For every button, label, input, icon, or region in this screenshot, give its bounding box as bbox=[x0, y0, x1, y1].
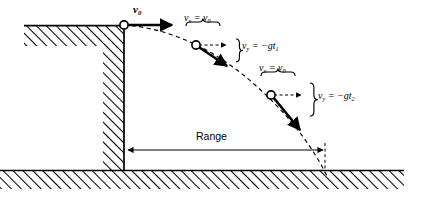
launch-point-marker bbox=[120, 21, 128, 29]
figure-canvas bbox=[0, 0, 430, 201]
range-dimension bbox=[128, 143, 325, 170]
label-range: Range bbox=[196, 131, 227, 142]
launch-point-group bbox=[120, 21, 172, 29]
ground-hatching bbox=[0, 171, 404, 189]
cliff-terrain bbox=[24, 25, 125, 171]
velocity-point-2-marker bbox=[267, 91, 275, 99]
label-initial-velocity: v0 bbox=[133, 4, 141, 15]
velocity-point-1-marker bbox=[192, 41, 200, 49]
label-vx-first: vx = v0 bbox=[184, 13, 210, 23]
resultant-2-arrow bbox=[273, 97, 300, 130]
label-vx-second: vx = v0 bbox=[259, 63, 285, 73]
label-vy-second: vy = −gt2 bbox=[318, 91, 355, 101]
vy2-brace bbox=[310, 83, 318, 116]
projectile-motion-diagram: v0 vx = v0 vy = −gt1 vx = v0 vy = −gt2 R… bbox=[0, 0, 430, 201]
cliff-hatching bbox=[24, 25, 124, 170]
resultant-1-arrow bbox=[198, 47, 227, 67]
velocity-marker-2 bbox=[261, 69, 318, 130]
ground-terrain bbox=[0, 171, 404, 190]
label-vy-first: vy = −gt1 bbox=[242, 41, 279, 51]
velocity-marker-1 bbox=[186, 19, 243, 66]
trajectory-path bbox=[124, 25, 328, 178]
